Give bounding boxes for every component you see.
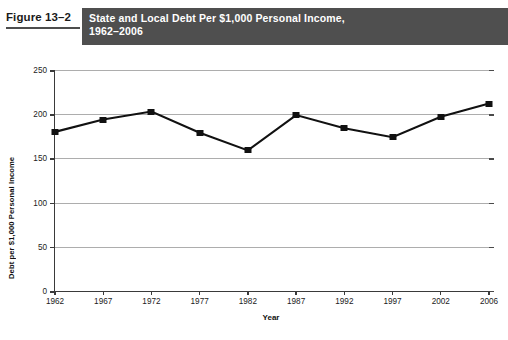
plot-area: 050100150200250 196219671972197719821987… bbox=[54, 70, 489, 292]
x-axis-tick-mark bbox=[488, 291, 489, 295]
x-axis-tick-mark bbox=[344, 291, 345, 295]
figure-title-line-1: State and Local Debt Per $1,000 Personal… bbox=[89, 12, 500, 25]
data-point-marker bbox=[341, 125, 348, 131]
data-point-marker bbox=[293, 112, 300, 118]
x-axis-tick-label: 2006 bbox=[480, 297, 498, 306]
data-point-marker bbox=[486, 101, 493, 107]
y-axis-tick-label: 50 bbox=[38, 242, 47, 251]
x-axis-tick-mark bbox=[54, 291, 55, 295]
x-axis-tick-label: 1997 bbox=[383, 297, 401, 306]
x-axis-tick-label: 1977 bbox=[191, 297, 209, 306]
y-axis-tick-label: 250 bbox=[33, 66, 47, 75]
x-axis-tick-mark bbox=[151, 291, 152, 295]
data-point-marker bbox=[437, 114, 444, 120]
y-axis-tick-label: 150 bbox=[33, 154, 47, 163]
x-axis-tick-label: 2002 bbox=[432, 297, 450, 306]
data-point-marker bbox=[100, 117, 107, 123]
x-axis-tick-mark bbox=[247, 291, 248, 295]
figure-number-underline bbox=[6, 27, 80, 29]
x-axis-tick-mark bbox=[440, 291, 441, 295]
x-axis-tick-mark bbox=[392, 291, 393, 295]
series-line bbox=[55, 70, 489, 291]
y-axis-tick-label: 200 bbox=[33, 110, 47, 119]
right-axis-tick-mark bbox=[489, 291, 494, 292]
figure-header: Figure 13–2 State and Local Debt Per $1,… bbox=[0, 8, 508, 45]
x-axis-tick-label: 1992 bbox=[335, 297, 353, 306]
right-axis-tick-mark bbox=[489, 114, 494, 115]
figure-title-band: State and Local Debt Per $1,000 Personal… bbox=[82, 8, 508, 45]
figure-number-block: Figure 13–2 bbox=[0, 8, 82, 45]
y-axis-tick-label: 0 bbox=[42, 287, 47, 296]
x-axis-tick-label: 1967 bbox=[94, 297, 112, 306]
x-axis-tick-label: 1972 bbox=[142, 297, 160, 306]
data-point-marker bbox=[244, 147, 251, 153]
y-axis-tick-label: 100 bbox=[33, 198, 47, 207]
x-axis-title: Year bbox=[54, 313, 488, 322]
right-axis-tick-mark bbox=[489, 158, 494, 159]
figure-title-line-2: 1962–2006 bbox=[89, 25, 500, 38]
right-axis-tick-mark bbox=[489, 247, 494, 248]
x-axis-tick-label: 1962 bbox=[46, 297, 64, 306]
x-axis-tick-mark bbox=[103, 291, 104, 295]
x-axis-tick-label: 1982 bbox=[239, 297, 257, 306]
data-point-marker bbox=[52, 129, 59, 135]
data-point-marker bbox=[389, 134, 396, 140]
right-axis-tick-mark bbox=[489, 203, 494, 204]
y-axis-title: Debt per $1,000 Personal Income bbox=[6, 143, 17, 293]
x-axis-tick-label: 1987 bbox=[287, 297, 305, 306]
chart-container: Debt per $1,000 Personal Income 05010015… bbox=[0, 55, 508, 325]
figure-number-label: Figure 13–2 bbox=[6, 11, 71, 23]
data-point-marker bbox=[148, 109, 155, 115]
x-axis-tick-mark bbox=[295, 291, 296, 295]
x-axis-tick-mark bbox=[199, 291, 200, 295]
right-axis-tick-mark bbox=[489, 70, 494, 71]
data-point-marker bbox=[196, 130, 203, 136]
